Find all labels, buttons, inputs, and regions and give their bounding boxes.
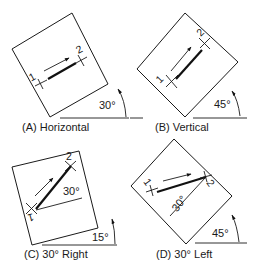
rotation-arrow-icon [232,91,240,116]
rotation-angle-label: 45° [212,227,229,239]
direction-arrow-icon [35,178,53,196]
line-angle-label: 30° [63,185,80,197]
rotation-angle-label: 15° [92,231,109,243]
panel-b: 1 2 45° (B) Vertical [130,13,247,133]
panel-caption: (A) Horizontal [22,121,89,133]
panel-caption: (D) 30° Left [156,248,212,260]
rotation-angle-label: 45° [214,98,231,110]
point-label-1: 1 [27,211,36,224]
point-label-1: 1 [27,70,38,83]
panel-d: 1 2 30° 45° (D) 30° Left [131,139,247,260]
point-label-1: 1 [153,72,166,85]
rotation-arrow-icon [112,219,115,244]
panel-c: 1 2 30° 15° (C) 30° Right [12,150,117,260]
plate-square [12,13,108,117]
plate-square [12,151,98,245]
rotation-arrow-icon [232,215,239,242]
measurement-line [48,63,76,79]
point-label-2: 2 [74,42,85,55]
panel-a: 1 2 30° (A) Horizontal [12,13,129,133]
crosshair-point-2-icon [65,161,76,171]
direction-arrow-icon [163,174,191,181]
rotation-angle-label: 30° [99,99,116,111]
line-angle-label: 30° [169,193,189,214]
crosshair-point-1-icon [146,185,158,196]
crosshair-point-2-icon [76,55,87,66]
direction-arrow-icon [171,47,191,71]
crosshair-point-2-icon [199,38,210,49]
panel-caption: (C) 30° Right [24,248,88,260]
figure-canvas: 1 2 30° (A) Horizontal 1 2 45° (B) Verti… [0,0,260,267]
point-label-2: 2 [66,150,72,162]
rotation-arrow-icon [118,89,126,117]
panel-caption: (B) Vertical [155,121,209,133]
measurement-line [176,50,202,79]
crosshair-point-1-icon [166,75,178,88]
point-label-1: 1 [141,176,154,188]
